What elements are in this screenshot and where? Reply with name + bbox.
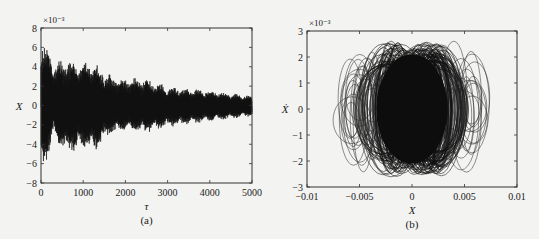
y-tick-label: −8 — [26, 178, 37, 189]
y-tick-label: 0 — [298, 104, 303, 115]
panel-b-phase-portrait: −0.01−0.00500.0050.01−3−2−10123×10⁻³XẊ(b… — [270, 0, 539, 239]
y-tick-label: 2 — [32, 81, 37, 92]
y-axis-label: X — [15, 100, 24, 112]
chart-a-svg: 010002000300040005000−8−6−4−202468×10⁻³τ… — [0, 0, 270, 239]
x-tick-label: −0.005 — [345, 191, 373, 202]
x-tick-label: 0.005 — [453, 191, 476, 202]
dense-core — [376, 54, 447, 163]
panel-caption: (b) — [406, 218, 419, 231]
y-tick-label: −6 — [26, 158, 37, 169]
y-tick-label: −1 — [292, 130, 303, 141]
y-tick-label: 2 — [298, 52, 303, 63]
y-tick-label: −2 — [26, 119, 37, 130]
y-tick-label: 8 — [32, 23, 37, 34]
x-tick-label: 0 — [39, 187, 44, 198]
y-tick-label: 0 — [32, 100, 37, 111]
x-axis-label: τ — [145, 200, 150, 212]
x-tick-label: 0.01 — [508, 191, 526, 202]
x-tick-label: 2000 — [115, 187, 135, 198]
phase-trajectories — [333, 41, 490, 177]
x-tick-label: 5000 — [242, 187, 262, 198]
y-tick-label: 3 — [298, 26, 303, 37]
y-tick-label: −2 — [292, 156, 303, 167]
panel-a-time-series: 010002000300040005000−8−6−4−202468×10⁻³τ… — [0, 0, 270, 239]
x-tick-label: 3000 — [158, 187, 178, 198]
chart-b-svg: −0.01−0.00500.0050.01−3−2−10123×10⁻³XẊ(b… — [270, 0, 539, 239]
y-multiplier-label: ×10⁻³ — [43, 15, 65, 25]
x-tick-label: 4000 — [200, 187, 220, 198]
panel-caption: (a) — [140, 214, 153, 227]
x-axis-label: X — [408, 204, 417, 216]
y-multiplier-label: ×10⁻³ — [309, 18, 331, 28]
x-tick-label: 1000 — [73, 187, 93, 198]
y-tick-label: 4 — [32, 61, 37, 72]
y-tick-label: 1 — [298, 78, 303, 89]
y-tick-label: −3 — [292, 182, 303, 193]
time-series-line — [41, 48, 252, 161]
x-tick-label: −0.01 — [295, 191, 318, 202]
y-tick-label: −4 — [26, 139, 37, 150]
y-tick-label: 6 — [32, 42, 37, 53]
y-axis-label: Ẋ — [281, 103, 290, 115]
x-tick-label: 0 — [410, 191, 415, 202]
